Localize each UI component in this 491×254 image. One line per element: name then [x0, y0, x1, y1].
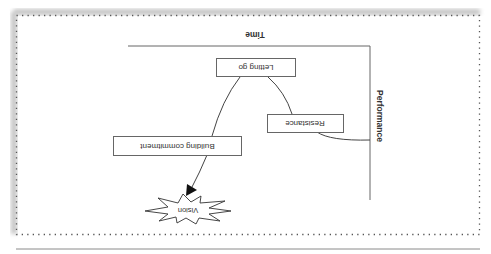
node-vision: Vision [145, 194, 231, 224]
node-letting-go: Letting go [217, 59, 296, 77]
node-building-commitment: Building commitment [114, 137, 242, 156]
figure: Time Performance Letting go Resistance B… [0, 0, 491, 254]
curve-letting-go-to-resistance [268, 77, 292, 114]
performance-axis-label: Performance [375, 90, 385, 142]
frame-shadow [11, 9, 480, 234]
arrowhead-icon [186, 184, 197, 196]
curve-resistance-to-axis [317, 132, 370, 140]
time-axis-label: Time [245, 30, 265, 40]
node-building-commitment-label: Building commitment [140, 142, 215, 151]
node-vision-label: Vision [178, 206, 198, 215]
node-letting-go-label: Letting go [238, 63, 274, 72]
dotted-frame [17, 16, 480, 235]
node-resistance-label: Resistance [285, 119, 325, 128]
curve-letting-go-to-building [212, 77, 240, 136]
curve-building-to-vision [191, 155, 207, 189]
node-resistance: Resistance [268, 115, 344, 133]
